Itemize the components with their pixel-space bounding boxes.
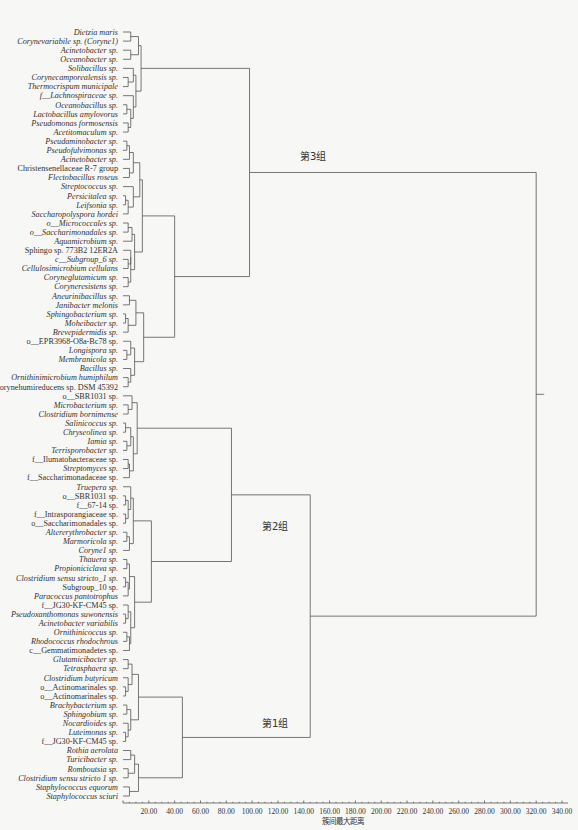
dendrogram-chart: Dietzia marisCorynevariabile sp. (Coryne… xyxy=(0,0,578,830)
x-tick-label: 160.00 xyxy=(319,807,340,816)
group-label: 第1组 xyxy=(262,717,288,729)
leaf-label: Saccharopolyspora hordei xyxy=(32,210,119,219)
x-tick-label: 280.00 xyxy=(474,807,495,816)
x-tick-label: 320.00 xyxy=(526,807,547,816)
leaf-label: Janibacter melonis xyxy=(55,301,118,310)
leaf-label: Coryneglutamicum sp. xyxy=(44,273,118,282)
leaf-label: Sphingobacterium sp. xyxy=(47,310,118,319)
leaf-label: Aneurinibacillus sp. xyxy=(51,292,118,301)
leaf-label: Acinetobacter variabilis xyxy=(38,619,118,628)
x-axis: 20.0040.0060.0080.00100.00120.00140.0016… xyxy=(123,801,573,827)
leaf-label: Aquamicrobium sp. xyxy=(53,237,118,246)
leaf-label: Romboutsia sp. xyxy=(67,765,119,774)
leaf-label: Leifsonia sp. xyxy=(75,201,118,210)
leaf-label: Christensenellaceae R-7 group xyxy=(18,164,119,173)
leaf-label: Paracoccus pantotrophus xyxy=(33,592,118,601)
leaf-label: Glutamicibacter sp. xyxy=(53,655,118,664)
leaf-label: Thermocrispum municipale xyxy=(28,82,119,91)
x-tick-label: 40.00 xyxy=(166,807,183,816)
leaf-label: Solibacillus sp. xyxy=(68,64,118,73)
leaf-label: Membranicola sp. xyxy=(57,355,118,364)
leaf-label: Ornithinicoccus sp. xyxy=(54,628,118,637)
leaf-label: f__JG30-KF-CM45 sp. xyxy=(42,737,118,746)
leaf-label: Oceanobacter sp. xyxy=(60,55,118,64)
leaf-label: Persicitalea sp. xyxy=(66,192,118,201)
leaf-label: Altererythrobacter sp. xyxy=(45,528,118,537)
leaf-label: Nocardioides sp. xyxy=(62,719,118,728)
leaf-label: Sphingobium sp. xyxy=(63,710,118,719)
group-labels: 第3组第2组第1组 xyxy=(262,150,326,729)
leaf-label: Staphylococcus equorum xyxy=(36,783,118,792)
leaf-label: Terrisporobacter sp. xyxy=(51,446,118,455)
leaf-label: o__Actinomarinales sp. xyxy=(40,683,118,692)
leaf-label: Iamia sp. xyxy=(87,437,118,446)
leaf-label: Clostridium sensu stricto_1 sp. xyxy=(16,574,118,583)
leaf-label: f__Lachnospiraceae sp. xyxy=(40,91,118,100)
leaf-label: Acinetobacter sp. xyxy=(60,46,118,55)
leaf-label: Pseudofulvimonas sp. xyxy=(46,146,118,155)
leaf-label: Lactobacillus amylovorus xyxy=(32,110,118,119)
leaf-label: o__Actinomarinales sp. xyxy=(40,692,118,701)
leaf-label: Flectobacillus roseus xyxy=(47,173,118,182)
leaf-label: Rhodococcus rhodochrous xyxy=(30,637,118,646)
leaf-label: Tetrasphaera sp. xyxy=(63,664,118,673)
leaf-label: o__Saccharimonadales sp. xyxy=(30,228,118,237)
leaf-label: Bacillus sp. xyxy=(80,364,118,373)
leaf-label: f__JG30-KF-CM45 sp. xyxy=(42,601,118,610)
x-tick-label: 300.00 xyxy=(500,807,521,816)
leaf-label: f__Saccharimonadaceae sp. xyxy=(27,473,118,482)
leaf-label: f__Intrasporangiaceae sp. xyxy=(34,510,118,519)
leaf-label: Truepera sp. xyxy=(77,483,118,492)
leaf-label: Staphylococcus sciuri xyxy=(46,792,118,801)
x-tick-label: 100.00 xyxy=(242,807,263,816)
x-tick-label: 260.00 xyxy=(448,807,469,816)
leaf-label: Streptococcus sp. xyxy=(61,182,118,191)
leaf-label: Longispora sp. xyxy=(68,346,118,355)
leaf-label: Turicibacter sp. xyxy=(66,755,118,764)
leaf-label: Corynehumireducens sp. DSM 45392 xyxy=(0,383,118,392)
leaf-label: Pseudaminobacter sp. xyxy=(44,137,118,146)
leaf-label: Propioniciclava sp. xyxy=(53,564,118,573)
leaf-label: Corynecamporealensis sp. xyxy=(31,73,118,82)
x-tick-label: 240.00 xyxy=(423,807,444,816)
leaf-label: Coryne1 sp. xyxy=(78,546,118,555)
leaf-label: Microbacterium sp. xyxy=(53,401,118,410)
leaf-label: o__EPR3968-O8a-Bc78 sp. xyxy=(27,337,118,346)
leaf-label: c__Subgroup_6 sp. xyxy=(55,255,118,264)
x-tick-label: 200.00 xyxy=(371,807,392,816)
dendrogram-branches xyxy=(123,32,544,796)
leaf-label: Clostridium sensu stricto 1 sp. xyxy=(18,774,118,783)
leaf-label: Corynevariabile sp. (Coryne1) xyxy=(17,37,118,46)
leaf-label: o__Micrococcales sp. xyxy=(46,219,118,228)
leaf-label: Sphingo sp. 773B2 12ER2A xyxy=(25,246,118,255)
leaf-label: o__SBR1031 sp. xyxy=(62,392,118,401)
leaf-label: Dietzia maris xyxy=(73,28,118,37)
leaf-label: c__Gemmatimonadetes sp. xyxy=(29,646,118,655)
leaf-label: Clostridium bornimense xyxy=(39,410,119,419)
leaf-label: o__Saccharimonadales sp. xyxy=(31,519,118,528)
x-tick-label: 340.00 xyxy=(552,807,573,816)
x-tick-label: 140.00 xyxy=(293,807,314,816)
leaf-label: Pseudomonas formosensis xyxy=(30,119,118,128)
leaf-label: Moheibacter sp. xyxy=(64,319,118,328)
leaf-label: Brachybacterium sp. xyxy=(50,701,118,710)
leaf-label: Salinicoccus sp. xyxy=(65,419,118,428)
leaf-label: Pseudoxanthomonas suwonensis xyxy=(10,610,118,619)
leaf-label: Chryseolinea sp. xyxy=(63,428,118,437)
leaf-label: o__SBR1031 sp. xyxy=(62,492,118,501)
leaf-label: Luteimonas sp. xyxy=(67,728,118,737)
leaf-label: Cellulosimicrobium cellulans xyxy=(22,264,118,273)
leaf-label: Marmoricola sp. xyxy=(62,537,118,546)
leaf-label: f__67-14 sp. xyxy=(77,501,118,510)
x-tick-label: 20.00 xyxy=(140,807,157,816)
leaf-label: f__Ilumatobacteraceae sp. xyxy=(32,455,118,464)
group-label: 第2组 xyxy=(262,520,288,532)
leaf-labels: Dietzia marisCorynevariabile sp. (Coryne… xyxy=(0,28,119,801)
leaf-label: Acetitomaculum sp. xyxy=(52,128,118,137)
x-tick-label: 120.00 xyxy=(268,807,289,816)
leaf-label: Acinetobacter sp. xyxy=(60,155,118,164)
x-tick-label: 220.00 xyxy=(397,807,418,816)
leaf-label: Subgroup_10 sp. xyxy=(63,583,119,592)
leaf-label: Rothia aerolata xyxy=(66,746,118,755)
leaf-label: Streptomyces sp. xyxy=(63,464,118,473)
